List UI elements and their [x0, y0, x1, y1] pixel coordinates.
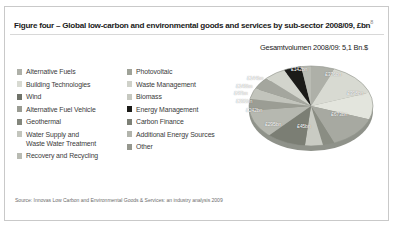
chart-title: Gesamtvolumen 2008/09: 5,1 Bn.$	[239, 43, 389, 52]
pie-chart-svg	[233, 59, 389, 153]
legend-swatch-icon	[127, 131, 132, 137]
figure-card: Figure four – Global low-carbon and envi…	[4, 6, 389, 221]
pie-slice-value-label: £295bn	[265, 121, 281, 127]
legend-item-photovoltaic[interactable]: Photovoltaic	[127, 67, 235, 76]
pie-slice-value-label: £45bn	[297, 123, 310, 129]
legend-item-waste-management[interactable]: Waste Management	[127, 80, 235, 89]
legend-column-left: Alternative Fuels Building Technologies …	[17, 67, 129, 164]
pie-slice-value-label: £47bn	[234, 90, 247, 96]
legend-item-wind[interactable]: Wind	[17, 92, 129, 101]
figure-title-footnote-marker: 8	[370, 19, 373, 25]
pie-slice-value-label: £376bn	[325, 71, 341, 77]
legend-swatch-icon	[127, 69, 132, 75]
source-note: Source: Innovas Low Carbon and Environme…	[15, 197, 380, 203]
legend-item-alternative-fuels[interactable]: Alternative Fuels	[17, 67, 129, 76]
legend-item-label: Alternative Fuel Vehicle	[26, 105, 96, 114]
legend-item-other[interactable]: Other	[127, 142, 235, 151]
pie-slice-value-label: £242bn	[246, 107, 262, 113]
pie-slice-value-label: £398bn	[347, 90, 363, 96]
legend-swatch-icon	[127, 81, 132, 87]
legend-item-water-supply-and-waste-water-treatment[interactable]: Water Supply and Waste Water Treatment	[17, 130, 129, 148]
legend-swatch-icon	[17, 94, 22, 100]
legend-swatch-icon	[17, 119, 22, 125]
legend-item-biomass[interactable]: Biomass	[127, 92, 235, 101]
legend-swatch-icon	[17, 81, 22, 87]
pie-slice-value-label: £191bn	[236, 98, 252, 104]
chart-legend: Alternative Fuels Building Technologies …	[15, 67, 233, 189]
pie-chart: £142bn £376bn £398bn £673bn £45bn £295bn…	[233, 59, 389, 153]
title-divider	[10, 34, 384, 35]
legend-column-right: Photovoltaic Waste Management Biomass En…	[127, 67, 235, 155]
legend-item-recovery-and-recycling[interactable]: Recovery and Recycling	[17, 151, 129, 160]
pie-chart-panel: Gesamtvolumen 2008/09: 5,1 Bn.$	[233, 41, 389, 153]
legend-item-label: Recovery and Recycling	[26, 151, 98, 160]
legend-item-additional-energy-sources[interactable]: Additional Energy Sources	[127, 130, 235, 139]
legend-item-geothermal[interactable]: Geothermal	[17, 117, 129, 126]
legend-swatch-icon	[17, 153, 22, 159]
pie-slice-value-label: £673bn	[331, 111, 347, 117]
legend-swatch-icon	[17, 106, 22, 112]
legend-item-label: Waste Management	[136, 80, 196, 89]
legend-item-label: Geothermal	[26, 117, 61, 126]
pie-slice-value-label: £142bn	[291, 66, 307, 72]
legend-item-label: Additional Energy Sources	[136, 130, 215, 139]
legend-swatch-icon	[17, 69, 22, 75]
legend-item-alternative-fuel-vehicle[interactable]: Alternative Fuel Vehicle	[17, 105, 129, 114]
legend-item-label: Energy Management	[136, 105, 198, 114]
legend-item-label: Water Supply and Waste Water Treatment	[26, 130, 96, 148]
legend-item-label: Wind	[26, 92, 41, 101]
legend-item-building-technologies[interactable]: Building Technologies	[17, 80, 129, 89]
legend-item-label: Photovoltaic	[136, 67, 172, 76]
legend-item-label: Building Technologies	[26, 80, 90, 89]
pie-slice-value-label: £144bn	[247, 75, 263, 81]
pie-slices	[233, 59, 389, 153]
legend-swatch-icon	[127, 144, 132, 150]
legend-swatch-icon	[127, 119, 132, 125]
page-title: Figure four – Global low-carbon and envi…	[14, 19, 386, 30]
legend-item-label: Alternative Fuels	[26, 67, 76, 76]
legend-item-carbon-finance[interactable]: Carbon Finance	[127, 117, 235, 126]
figure-title-text: Figure four – Global low-carbon and envi…	[14, 21, 370, 30]
legend-swatch-icon	[127, 94, 132, 100]
legend-item-label: Biomass	[136, 92, 162, 101]
legend-swatch-icon	[127, 106, 132, 112]
legend-item-energy-management[interactable]: Energy Management	[127, 105, 235, 114]
legend-item-label: Carbon Finance	[136, 117, 184, 126]
legend-item-label: Other	[136, 142, 153, 151]
pie-slice-value-label: £146bn	[236, 83, 252, 89]
legend-swatch-icon	[17, 131, 22, 137]
